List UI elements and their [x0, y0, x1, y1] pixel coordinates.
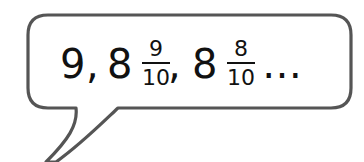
speech-bubble-outline: [0, 0, 364, 162]
term-3-fraction: 8 10: [227, 38, 255, 89]
term-3-whole: 8: [192, 44, 217, 84]
ellipsis: …: [262, 44, 302, 84]
term-2-denominator: 10: [142, 67, 170, 89]
fraction-bar: [142, 62, 170, 64]
term-2-numerator: 9: [142, 38, 170, 60]
term-3-numerator: 8: [227, 38, 255, 60]
fraction-bar: [227, 62, 255, 64]
term-2-separator: ,: [168, 44, 181, 84]
term-2-fraction: 9 10: [142, 38, 170, 89]
term-1-whole: 9: [60, 44, 85, 84]
term-3-denominator: 10: [227, 67, 255, 89]
term-2-whole: 8: [107, 44, 132, 84]
term-1-separator: ,: [86, 44, 99, 84]
